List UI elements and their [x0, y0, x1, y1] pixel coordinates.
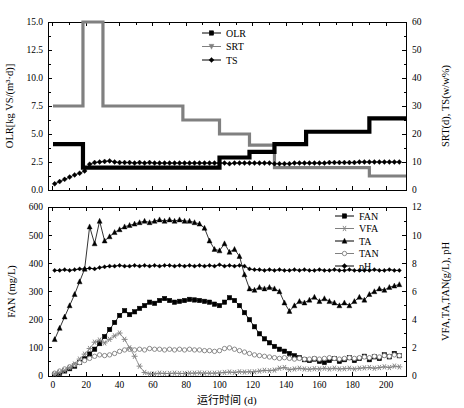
tan-point	[202, 348, 206, 352]
tan-point	[247, 351, 251, 355]
ph-point	[327, 268, 331, 272]
ta-point	[297, 299, 302, 304]
ph-point	[297, 268, 301, 272]
ts-point	[162, 161, 167, 166]
ts-point	[92, 160, 97, 165]
ta-point	[112, 230, 117, 235]
ta-point	[307, 297, 312, 302]
ts-point	[177, 161, 182, 166]
fan-point	[282, 349, 286, 353]
legend-marker-fan	[342, 214, 346, 218]
ts-point	[267, 161, 272, 166]
tan-point	[82, 358, 86, 362]
ts-point	[67, 175, 72, 180]
ts-point	[272, 161, 277, 166]
ta-point	[317, 299, 322, 304]
ph-point	[287, 268, 291, 272]
legend-label-ts: TS	[226, 55, 238, 66]
ta-point	[107, 234, 112, 239]
fan-point	[177, 299, 181, 303]
fan-point	[147, 300, 151, 304]
top-y-right-label: 40	[412, 73, 422, 83]
bot-y-left-label: 100	[29, 343, 44, 353]
x-tick-label: 140	[279, 380, 294, 390]
ph-point	[237, 263, 241, 267]
ph-point	[137, 264, 141, 268]
ph-point	[217, 263, 221, 267]
fan-point	[167, 298, 171, 302]
tan-point	[347, 355, 351, 359]
ts-point	[257, 161, 262, 166]
ts-point	[97, 160, 102, 165]
ts-point	[142, 161, 147, 166]
vfa-point	[381, 364, 387, 369]
tan-point	[372, 354, 376, 358]
tan-point	[387, 354, 391, 358]
ts-point	[292, 161, 297, 166]
ts-point	[167, 161, 172, 166]
fan-point	[267, 341, 271, 345]
ts-point	[357, 160, 362, 165]
fan-point	[232, 298, 236, 302]
ts-point	[57, 179, 62, 184]
top-y-left-label: 15.0	[26, 17, 43, 27]
tan-point	[272, 355, 276, 359]
ta-point	[177, 217, 182, 222]
ta-point	[367, 292, 372, 297]
tan-point	[207, 348, 211, 352]
ph-point	[212, 264, 216, 268]
bot-y-right-label: 10	[412, 231, 422, 241]
fan-point	[252, 325, 256, 329]
ph-point	[377, 268, 381, 272]
ph-point	[307, 268, 311, 272]
ta-point	[372, 289, 377, 294]
ph-point	[182, 264, 186, 268]
ph-point	[337, 268, 341, 272]
series-ta	[52, 217, 402, 342]
x-tick-label: 20	[82, 380, 92, 390]
ts-point	[382, 160, 387, 165]
vfa-line	[55, 333, 400, 374]
tan-point	[252, 353, 256, 357]
ts-point	[282, 161, 287, 166]
ta-point	[282, 300, 287, 305]
bot-y-right-label: 8	[412, 259, 417, 269]
fan-point	[227, 295, 231, 299]
vfa-point	[366, 365, 372, 370]
bot-ylabel-left: FAN (mg/L)	[6, 265, 18, 318]
ta-point	[52, 337, 57, 342]
ts-point	[397, 160, 402, 165]
fan-point	[242, 310, 246, 314]
tan-point	[182, 348, 186, 352]
fan-point	[187, 297, 191, 301]
ph-point	[292, 268, 296, 272]
ta-point	[292, 303, 297, 308]
tan-point	[357, 355, 361, 359]
ta-point	[227, 249, 232, 254]
bot-y-right-label: 6	[412, 287, 417, 297]
ta-line	[55, 220, 400, 340]
ph-point	[172, 264, 176, 268]
ph-point	[372, 268, 376, 272]
legend-marker-tan	[342, 251, 346, 255]
tan-point	[147, 346, 151, 350]
ts-point	[362, 160, 367, 165]
ph-point	[272, 268, 276, 272]
fan-point	[217, 303, 221, 307]
ph-point	[277, 268, 281, 272]
ta-point	[327, 299, 332, 304]
ph-point	[63, 268, 67, 272]
ts-point	[372, 160, 377, 165]
tan-point	[212, 349, 216, 353]
ta-point	[347, 303, 352, 308]
tan-point	[332, 356, 336, 360]
ph-point	[322, 268, 326, 272]
ta-point	[277, 289, 282, 294]
ts-point	[182, 161, 187, 166]
tan-point	[392, 353, 396, 357]
ta-point	[267, 284, 272, 289]
tan-point	[162, 348, 166, 352]
ph-point	[73, 268, 77, 272]
tan-point	[397, 353, 401, 357]
legend-label-ph: pH	[359, 261, 371, 272]
